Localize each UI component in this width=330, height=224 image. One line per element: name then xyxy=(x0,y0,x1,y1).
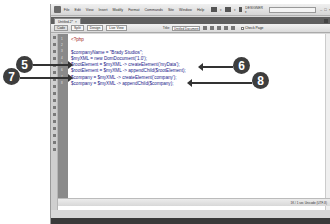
check-page-checkbox[interactable] xyxy=(241,27,244,30)
remove-comment-icon[interactable] xyxy=(53,106,56,109)
line-number-gutter: 1 2 3 4 5 6 7 8 xyxy=(58,34,68,198)
close-tab-icon[interactable]: × xyxy=(75,20,77,24)
line-number: 4 xyxy=(61,56,63,60)
live-view-button[interactable]: Live View xyxy=(106,25,126,31)
code-line: $rootElement = $myXML -> appendChild($ro… xyxy=(71,68,186,74)
check-page-label: Check Page xyxy=(245,26,263,30)
code-content[interactable]: <?php $companyName = "Brady Studios"; $m… xyxy=(71,37,186,87)
app-logo-icon xyxy=(54,6,61,13)
layout-icon[interactable] xyxy=(211,7,217,12)
title-label: Title: xyxy=(163,26,170,30)
outdent-icon[interactable] xyxy=(53,141,56,144)
title-input[interactable]: Untitled Document xyxy=(172,26,200,31)
vertical-scrollbar[interactable] xyxy=(325,34,330,210)
wrap-tag-icon[interactable] xyxy=(53,113,56,116)
highlight-invalid-icon[interactable] xyxy=(53,85,56,88)
menu-bar: File Edit View Insert Modify Format Comm… xyxy=(51,4,330,16)
menu-format[interactable]: Format xyxy=(128,8,139,12)
split-view-button[interactable]: Split xyxy=(71,25,84,31)
collapse-selection-icon[interactable] xyxy=(53,50,56,53)
line-number: 1 xyxy=(61,37,63,41)
menu-help[interactable]: Help xyxy=(197,8,204,12)
indent-icon[interactable] xyxy=(53,134,56,137)
line-number: 3 xyxy=(61,49,63,53)
expand-all-icon[interactable] xyxy=(53,57,56,60)
line-number: 2 xyxy=(61,43,63,47)
menu-file[interactable]: File xyxy=(64,8,70,12)
status-text: 1K / 1 sec Unicode (UTF-8) xyxy=(290,201,327,205)
chevron-down-icon[interactable]: ▾ xyxy=(234,8,236,12)
document-tab-label: Untitled-2* xyxy=(58,20,73,24)
minimize-button[interactable]: – xyxy=(320,7,322,12)
refresh-icon[interactable] xyxy=(217,26,221,30)
format-source-icon[interactable] xyxy=(53,148,56,151)
menu-edit[interactable]: Edit xyxy=(75,8,81,12)
apply-comment-icon[interactable] xyxy=(53,99,56,102)
callout-8: 8 xyxy=(252,72,269,89)
collapse-tag-icon[interactable] xyxy=(53,43,56,46)
preview-icon[interactable] xyxy=(210,26,214,30)
code-line: $company = $myXML -> appendChild($compan… xyxy=(71,81,186,87)
window-controls: – □ × xyxy=(320,7,330,12)
balance-braces-icon[interactable] xyxy=(53,71,56,74)
editor-window: File Edit View Insert Modify Format Comm… xyxy=(50,4,330,224)
menu-window[interactable]: Window xyxy=(179,8,192,12)
chevron-down-icon[interactable]: ▾ xyxy=(220,8,222,12)
arrow-right-icon xyxy=(20,77,69,79)
workspace-switcher[interactable]: DESIGNER ▾ xyxy=(245,6,265,14)
status-bar: 1K / 1 sec Unicode (UTF-8) xyxy=(58,198,330,206)
document-tab-bar: Untitled-2* × xyxy=(51,17,330,24)
menu-site[interactable]: Site xyxy=(168,8,174,12)
view-options-icon[interactable] xyxy=(224,26,228,30)
arrow-right-icon xyxy=(33,64,69,66)
recent-snippets-icon[interactable] xyxy=(53,120,56,123)
code-editor[interactable]: 1 2 3 4 5 6 7 8 <?php $companyName = "Br… xyxy=(51,34,330,210)
arrow-left-icon xyxy=(202,66,233,68)
move-css-icon[interactable] xyxy=(53,127,56,130)
menu-toolbar: ▾ ▾ xyxy=(211,7,242,12)
properties-panel-edge xyxy=(51,218,330,224)
design-view-button[interactable]: Design xyxy=(87,25,104,31)
site-icon[interactable] xyxy=(239,7,242,12)
visual-aids-icon[interactable] xyxy=(231,26,235,30)
help-search-input[interactable] xyxy=(269,7,316,13)
line-number: 8 xyxy=(61,81,63,85)
callout-7: 7 xyxy=(3,68,20,85)
arrow-left-icon xyxy=(191,82,252,84)
file-management-icon[interactable] xyxy=(203,26,207,30)
screenshot-stage: File Edit View Insert Modify Format Comm… xyxy=(0,0,330,224)
maximize-button[interactable]: □ xyxy=(324,7,326,12)
coding-toolbar xyxy=(51,34,58,210)
open-documents-icon[interactable] xyxy=(53,36,56,39)
extend-icon[interactable] xyxy=(225,7,231,12)
menu-insert[interactable]: Insert xyxy=(99,8,108,12)
code-view-button[interactable]: Code xyxy=(54,25,68,31)
syntax-error-icon[interactable] xyxy=(53,92,56,95)
toolbar-icons xyxy=(203,26,235,30)
menu-commands[interactable]: Commands xyxy=(145,8,163,12)
document-toolbar: Code Split Design Live View Title: Untit… xyxy=(51,24,330,33)
restore-icon[interactable] xyxy=(324,19,328,23)
check-page-control[interactable]: Check Page xyxy=(241,26,263,30)
menu-view[interactable]: View xyxy=(86,8,94,12)
callout-6: 6 xyxy=(233,57,250,74)
menu-modify[interactable]: Modify xyxy=(113,8,124,12)
line-number: 6 xyxy=(61,68,63,72)
callout-5: 5 xyxy=(16,56,33,73)
